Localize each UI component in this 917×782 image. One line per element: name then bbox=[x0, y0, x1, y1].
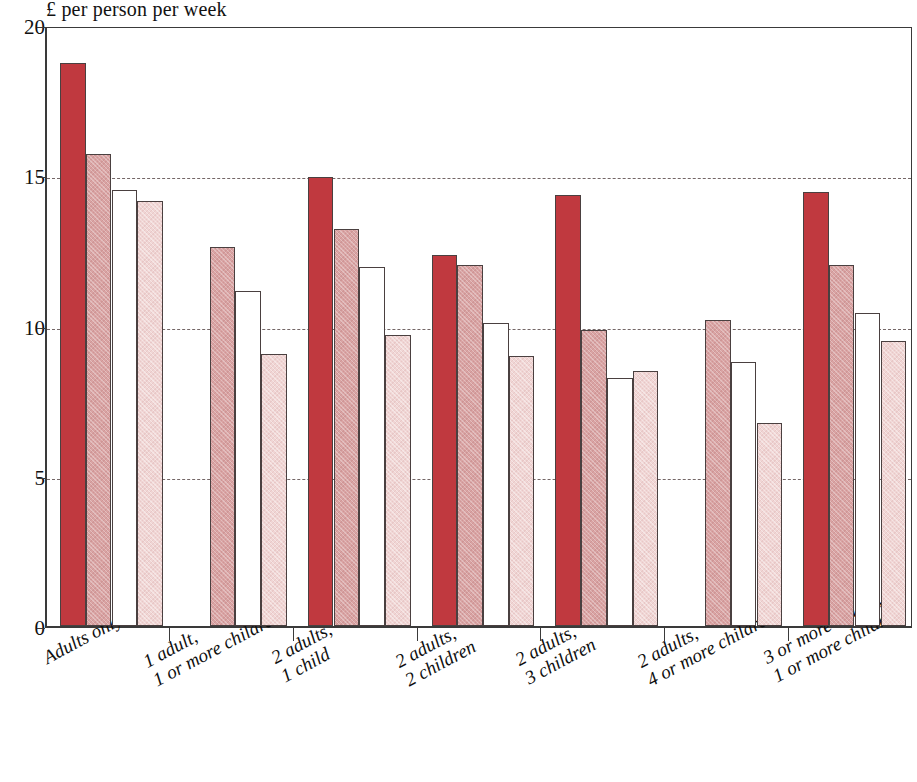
bar bbox=[86, 154, 112, 626]
bar bbox=[555, 195, 581, 626]
bar bbox=[705, 320, 731, 627]
bar bbox=[581, 330, 607, 626]
bar bbox=[359, 267, 385, 626]
bar bbox=[881, 341, 907, 626]
bar bbox=[261, 354, 287, 626]
bar bbox=[308, 177, 334, 626]
bar bbox=[432, 255, 458, 626]
x-tick-mark-6 bbox=[788, 628, 789, 641]
x-tick-mark-2 bbox=[293, 628, 294, 641]
y-tick-mark-5 bbox=[37, 478, 45, 479]
chart-root: £ per person per week 05101520 Adults on… bbox=[0, 0, 917, 782]
bar bbox=[633, 371, 659, 626]
bar bbox=[457, 265, 483, 626]
y-tick-mark-20 bbox=[37, 27, 45, 28]
bar bbox=[483, 323, 509, 627]
bar bbox=[731, 362, 757, 626]
bar bbox=[803, 192, 829, 626]
y-tick-mark-10 bbox=[37, 328, 45, 329]
chart-title: £ per person per week bbox=[46, 0, 227, 21]
x-category-label: 2 adults,2 children bbox=[392, 618, 479, 690]
bar bbox=[60, 63, 86, 626]
y-axis: 05101520 bbox=[0, 27, 45, 628]
bar bbox=[112, 190, 138, 626]
y-tick-mark-15 bbox=[37, 177, 45, 178]
bar bbox=[137, 201, 163, 626]
bar bbox=[509, 356, 535, 626]
bar bbox=[829, 265, 855, 626]
bar bbox=[385, 335, 411, 626]
x-tick-mark-5 bbox=[664, 628, 665, 641]
x-tick-mark-1 bbox=[169, 628, 170, 641]
plot-area bbox=[45, 27, 912, 628]
bar bbox=[334, 229, 360, 626]
bars-layer bbox=[47, 28, 911, 626]
bar bbox=[607, 378, 633, 626]
x-category-label: 2 adults,1 child bbox=[268, 619, 345, 686]
bar bbox=[210, 247, 236, 626]
x-axis-labels: Adults only1 adult,1 or more children2 a… bbox=[0, 628, 917, 782]
x-tick-mark-3 bbox=[417, 628, 418, 641]
bar bbox=[235, 291, 261, 626]
bar bbox=[855, 313, 881, 626]
bar bbox=[757, 423, 783, 626]
x-tick-mark-4 bbox=[540, 628, 541, 641]
